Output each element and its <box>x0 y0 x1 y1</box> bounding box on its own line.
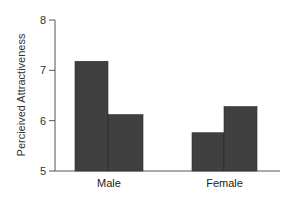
x-category-label: Male <box>97 177 121 189</box>
y-axis-label: Percieived Attractiveness <box>15 34 27 157</box>
y-tick-label: 7 <box>40 64 46 76</box>
bar <box>108 115 143 171</box>
bar <box>224 107 257 171</box>
y-tick-label: 8 <box>40 14 46 26</box>
y-tick-label: 5 <box>40 165 46 177</box>
bar <box>75 61 108 171</box>
chart-canvas: 5678MaleFemale <box>0 0 296 197</box>
x-category-label: Female <box>206 177 243 189</box>
y-tick-label: 6 <box>40 115 46 127</box>
bar <box>192 133 224 171</box>
